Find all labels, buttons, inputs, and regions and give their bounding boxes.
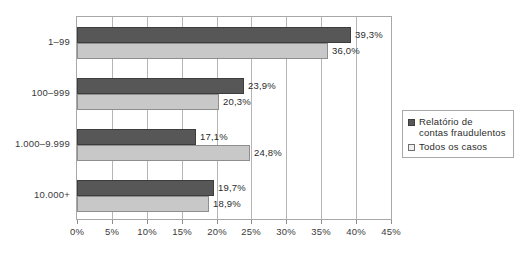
bar (77, 78, 244, 94)
bar-group: 23,9%20,3% (77, 78, 391, 110)
bar-value-label: 18,9% (213, 196, 241, 212)
x-tick-label: 45% (381, 226, 401, 237)
x-tick-label: 10% (137, 226, 157, 237)
category-label: 100–999 (6, 87, 70, 98)
x-tick (391, 220, 392, 224)
bar-group: 17,1%24,8% (77, 129, 391, 161)
bar-value-label: 20,3% (223, 94, 251, 110)
x-tick (356, 220, 357, 224)
bar-value-label: 36,0% (332, 43, 360, 59)
legend-label: Relatório de contas fraudulentos (419, 116, 506, 138)
x-tick-label: 15% (172, 226, 192, 237)
bar-group: 39,3%36,0% (77, 27, 391, 59)
category-label: 1.000–9.999 (6, 138, 70, 149)
bar-value-label: 17,1% (200, 129, 228, 145)
category-axis: 1–99100–9991.000–9.99910.000+ (6, 16, 70, 220)
bar (77, 43, 328, 59)
bar (77, 27, 351, 43)
category-label: 1–99 (6, 36, 70, 47)
bar (77, 94, 219, 110)
x-tick (112, 220, 113, 224)
legend-item: Todos os casos (408, 141, 506, 152)
category-label: 10.000+ (6, 189, 70, 200)
legend-swatch-icon (408, 119, 415, 126)
x-tick-label: 20% (207, 226, 227, 237)
legend-item: Relatório de contas fraudulentos (408, 116, 506, 138)
bar (77, 196, 209, 212)
x-tick-label: 30% (276, 226, 296, 237)
bar (77, 180, 214, 196)
bar-group: 19,7%18,9% (77, 180, 391, 212)
x-tick-label: 0% (70, 226, 84, 237)
chart-legend: Relatório de contas fraudulentosTodos os… (402, 110, 514, 158)
x-tick (182, 220, 183, 224)
bar-value-label: 19,7% (218, 180, 246, 196)
bar (77, 129, 196, 145)
x-tick (321, 220, 322, 224)
bar-chart: 1–99100–9991.000–9.99910.000+ 39,3%36,0%… (0, 0, 525, 257)
x-tick-label: 5% (105, 226, 119, 237)
x-tick (217, 220, 218, 224)
bar-value-label: 24,8% (254, 145, 282, 161)
bar (77, 145, 250, 161)
x-tick-label: 40% (346, 226, 366, 237)
x-axis: 0%5%10%15%20%25%30%35%40%45% (76, 220, 392, 244)
x-tick-label: 35% (311, 226, 331, 237)
bar-value-label: 39,3% (355, 27, 383, 43)
legend-swatch-icon (408, 144, 415, 151)
x-tick-label: 25% (241, 226, 261, 237)
legend-label: Todos os casos (419, 141, 487, 152)
x-tick (286, 220, 287, 224)
plot-area: 39,3%36,0%23,9%20,3%17,1%24,8%19,7%18,9% (76, 16, 392, 220)
x-tick (251, 220, 252, 224)
bar-value-label: 23,9% (248, 78, 276, 94)
x-tick (147, 220, 148, 224)
x-tick (77, 220, 78, 224)
